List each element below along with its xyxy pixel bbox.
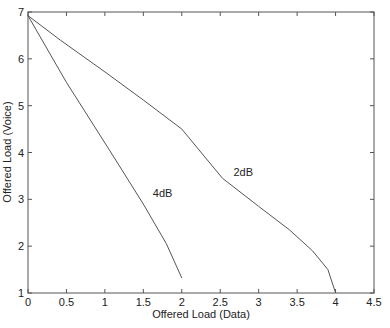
y-tick-label: 4 bbox=[18, 147, 24, 159]
series-line-4dB bbox=[28, 16, 182, 278]
x-tick-label: 2.5 bbox=[213, 296, 228, 308]
y-tick-label: 3 bbox=[18, 193, 24, 205]
y-tick-label: 2 bbox=[18, 240, 24, 252]
x-tick-label: 1.5 bbox=[136, 296, 151, 308]
series-label-2dB: 2dB bbox=[233, 166, 253, 178]
y-tick-label: 7 bbox=[18, 6, 24, 18]
series-line-2dB bbox=[28, 16, 336, 293]
series-label-4dB: 4dB bbox=[153, 187, 173, 199]
x-tick-label: 2 bbox=[179, 296, 185, 308]
y-tick-label: 6 bbox=[18, 53, 24, 65]
x-tick-label: 4 bbox=[332, 296, 338, 308]
chart: 00.511.522.533.544.5 1234567 2dB4dB Offe… bbox=[0, 0, 390, 328]
x-axis-label: Offered Load (Data) bbox=[152, 308, 250, 320]
y-axis-ticks: 1234567 bbox=[18, 6, 374, 299]
curve-labels: 2dB4dB bbox=[153, 166, 253, 199]
y-axis-label: Offered Load (Voice) bbox=[1, 101, 13, 202]
x-tick-label: 0.5 bbox=[59, 296, 74, 308]
x-axis-ticks: 00.511.522.533.544.5 bbox=[25, 12, 382, 308]
x-tick-label: 0 bbox=[25, 296, 31, 308]
x-tick-label: 1 bbox=[102, 296, 108, 308]
y-tick-label: 5 bbox=[18, 100, 24, 112]
y-tick-label: 1 bbox=[18, 287, 24, 299]
x-tick-label: 3.5 bbox=[289, 296, 304, 308]
data-series bbox=[28, 16, 336, 293]
x-tick-label: 3 bbox=[256, 296, 262, 308]
x-tick-label: 4.5 bbox=[366, 296, 381, 308]
